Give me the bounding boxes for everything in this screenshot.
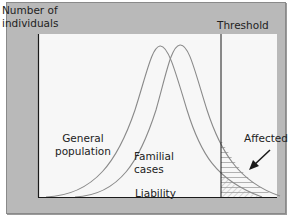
general-population-label-line-1: General	[55, 132, 111, 145]
threshold-label: Threshold	[217, 19, 269, 32]
affected-label: Affected	[244, 132, 288, 145]
general-population-label-line-2: population	[55, 145, 111, 158]
familial-cases-label: Familial cases	[134, 150, 174, 176]
x-axis-label: Liability	[135, 187, 176, 200]
y-axis-label-line-1: Number of	[2, 4, 58, 17]
y-axis-label-line-2: individuals	[2, 17, 58, 30]
familial-cases-label-line-1: Familial	[134, 150, 174, 163]
familial-cases-label-line-2: cases	[134, 163, 174, 176]
general-population-label: General population	[55, 132, 111, 158]
y-axis-label: Number of individuals	[2, 4, 58, 30]
